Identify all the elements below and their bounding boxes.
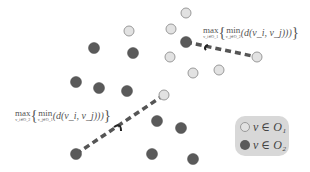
formula-bottom: maxv_i∈O_2{minv_j∈O_1(d(v_i, v_j)))} [15, 105, 111, 124]
point-o1 [165, 52, 175, 62]
point-o2 [128, 48, 139, 59]
point-o2 [152, 116, 163, 127]
point-o2 [71, 77, 82, 88]
legend: v ∈ O₁ v ∈ O₂ [235, 116, 289, 156]
legend-item-o2: v ∈ O₂ [240, 137, 286, 153]
point-o2 [181, 37, 192, 48]
point-o2 [71, 149, 82, 160]
dark-dot-icon [240, 140, 250, 150]
point-o1 [159, 90, 169, 100]
point-o2 [94, 83, 105, 94]
angle-arc-bottom [114, 125, 121, 131]
point-o2 [188, 154, 199, 165]
point-o1 [166, 24, 176, 34]
point-o1 [124, 26, 134, 36]
formula-bottom-max-sub: v_i∈O_2 [15, 117, 31, 122]
dashed-link-2 [76, 95, 164, 154]
formula-bottom-expr: d(v_i, v_j) [56, 110, 97, 121]
formula-bottom-min-sub: v_j∈O_1 [38, 117, 53, 122]
point-o2 [176, 123, 187, 134]
formula-top-expr: d(v_i, v_j) [244, 27, 285, 38]
light-dot-icon [240, 122, 250, 132]
point-o1 [214, 65, 224, 75]
legend-label-o1: v ∈ O₁ [253, 120, 286, 135]
point-o1 [252, 52, 262, 62]
dashed-link-1 [186, 42, 257, 57]
point-o1 [181, 8, 191, 18]
legend-item-o1: v ∈ O₁ [240, 119, 286, 135]
point-o2 [147, 149, 158, 160]
point-o2 [89, 43, 100, 54]
formula-top-min-sub: v_j∈O_2 [226, 34, 241, 39]
formula-top: maxv_i∈O_1{minv_j∈O_2(d(v_i, v_j)))} [203, 22, 299, 41]
legend-label-o2: v ∈ O₂ [253, 138, 286, 153]
point-o1 [188, 68, 198, 78]
formula-top-max-sub: v_i∈O_1 [203, 34, 219, 39]
point-o2 [122, 86, 133, 97]
